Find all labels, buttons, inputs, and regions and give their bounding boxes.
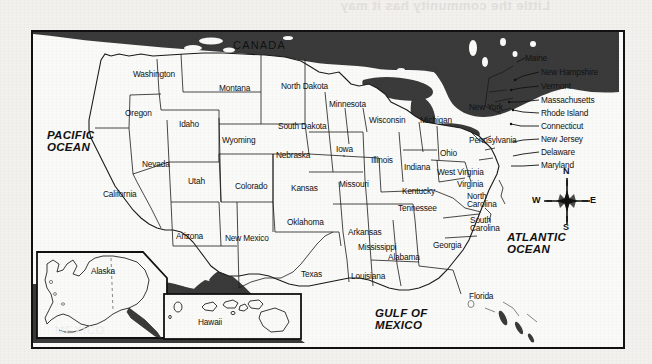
state-label-alabama: Alabama bbox=[388, 253, 420, 262]
south-carolina-line-2: Carolina bbox=[470, 224, 500, 232]
pacific-line-1: PACIFIC bbox=[47, 130, 94, 142]
inset-label-alaska: Alaska bbox=[91, 267, 115, 276]
state-label-oregon: Oregon bbox=[125, 109, 152, 118]
state-label-mississippi: Mississippi bbox=[358, 243, 396, 252]
state-label-west-virginia: West Virginia bbox=[437, 168, 484, 177]
state-label-arizona: Arizona bbox=[176, 232, 203, 241]
state-label-missouri: Missouri bbox=[339, 180, 369, 189]
map-vector-artwork bbox=[33, 32, 619, 343]
state-label-montana: Montana bbox=[219, 84, 250, 93]
state-label-wyoming: Wyoming bbox=[222, 136, 255, 145]
state-label-rhode-island: Rhode Island bbox=[541, 109, 588, 118]
atlantic-line-2: OCEAN bbox=[507, 244, 566, 256]
state-label-ohio: Ohio bbox=[440, 149, 457, 158]
state-label-connecticut: Connecticut bbox=[541, 122, 583, 131]
state-label-arkansas: Arkansas bbox=[348, 228, 381, 237]
state-label-tennessee: Tennessee bbox=[398, 204, 437, 213]
state-label-delaware: Delaware bbox=[541, 148, 575, 157]
compass-west-label: W bbox=[532, 195, 541, 205]
gulf-line-2: MEXICO bbox=[375, 320, 428, 332]
compass-north-label: N bbox=[563, 166, 570, 176]
state-label-nevada: Nevada bbox=[142, 160, 170, 169]
state-label-california: California bbox=[103, 190, 137, 199]
ocean-label-pacific: PACIFIC OCEAN bbox=[47, 130, 94, 153]
state-label-florida: Florida bbox=[469, 292, 493, 301]
state-label-louisiana: Louisiana bbox=[351, 272, 385, 281]
state-label-new-york: New York bbox=[469, 103, 503, 112]
inset-label-hawaii: Hawaii bbox=[198, 318, 222, 327]
compass-star bbox=[556, 190, 578, 212]
hawaii-inset bbox=[164, 294, 301, 339]
gulf-line-1: GULF OF bbox=[375, 308, 428, 320]
state-label-indiana: Indiana bbox=[404, 163, 430, 172]
state-label-maine: Maine bbox=[525, 54, 547, 63]
state-label-south-carolina: South Carolina bbox=[470, 216, 500, 233]
state-label-vermont: Vermont bbox=[541, 82, 571, 91]
north-carolina-line-2: Carolina bbox=[467, 200, 497, 208]
state-label-georgia: Georgia bbox=[433, 241, 461, 250]
ocean-label-gulf-of-mexico: GULF OF MEXICO bbox=[375, 308, 428, 331]
state-label-north-carolina: North Carolina bbox=[467, 192, 497, 209]
state-label-new-mexico: New Mexico bbox=[225, 234, 269, 243]
compass-south-label: S bbox=[563, 222, 569, 232]
state-label-colorado: Colorado bbox=[235, 182, 267, 191]
compass-east-label: E bbox=[590, 195, 596, 205]
state-label-washington: Washington bbox=[133, 70, 175, 79]
state-label-idaho: Idaho bbox=[179, 120, 199, 129]
state-label-iowa: Iowa bbox=[336, 145, 353, 154]
state-label-michigan: Michigan bbox=[420, 116, 452, 125]
country-label-canada: CANADA bbox=[233, 40, 286, 52]
state-label-south-dakota: South Dakota bbox=[278, 122, 326, 131]
state-label-virginia: Virginia bbox=[457, 180, 483, 189]
state-label-nebraska: Nebraska bbox=[276, 151, 310, 160]
atlantic-line-1: ATLANTIC bbox=[507, 232, 566, 244]
state-label-minnesota: Minnesota bbox=[329, 100, 366, 109]
state-label-wisconsin: Wisconsin bbox=[369, 116, 405, 125]
state-label-new-jersey: New Jersey bbox=[541, 135, 583, 144]
country-label-mexico: MEXICO bbox=[55, 325, 106, 337]
state-label-new-hampshire: New Hampshire bbox=[541, 68, 598, 77]
state-label-utah: Utah bbox=[188, 177, 205, 186]
state-label-pennsylvania: Pennsylvania bbox=[469, 136, 517, 145]
compass-rose: N S W E bbox=[536, 170, 598, 232]
state-label-kentucky: Kentucky bbox=[402, 187, 435, 196]
state-label-north-dakota: North Dakota bbox=[281, 82, 328, 91]
ocean-label-atlantic: ATLANTIC OCEAN bbox=[507, 232, 566, 255]
map-canvas: CANADA MEXICO PACIFIC OCEAN ATLANTIC OCE… bbox=[33, 32, 623, 347]
state-label-massachusetts: Massachusetts bbox=[541, 96, 594, 105]
page-bleed-through-text: Little the community has it may bbox=[150, 0, 550, 14]
state-label-oklahoma: Oklahoma bbox=[287, 218, 324, 227]
state-label-kansas: Kansas bbox=[291, 184, 318, 193]
pacific-line-2: OCEAN bbox=[47, 142, 94, 154]
state-label-texas: Texas bbox=[301, 270, 322, 279]
state-label-illinois: Illinois bbox=[371, 156, 393, 165]
